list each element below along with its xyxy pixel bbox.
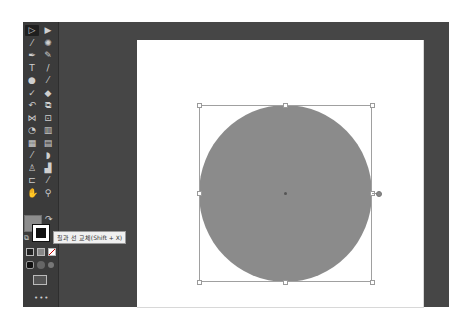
eyedropper-tool[interactable]: ⁄ — [25, 150, 39, 161]
handle-top-center[interactable] — [283, 103, 288, 108]
gradient-tool[interactable]: ▤ — [41, 138, 55, 149]
width-tool[interactable]: ⋈ — [25, 113, 39, 124]
stroke-color-swatch[interactable] — [33, 225, 49, 241]
handle-top-right[interactable] — [370, 103, 375, 108]
ellipse-tool[interactable]: ● — [25, 75, 39, 86]
center-point — [284, 192, 287, 195]
eraser-tool[interactable]: ◆ — [41, 88, 55, 99]
handle-bottom-left[interactable] — [197, 280, 202, 285]
selection-tool[interactable]: ▷ — [25, 25, 39, 36]
mesh-tool[interactable]: ▦ — [25, 138, 39, 149]
rotate-tool[interactable]: ↶ — [25, 100, 39, 111]
artboard-tool[interactable]: ⊏ — [25, 175, 39, 186]
draw-normal-button[interactable] — [26, 261, 34, 269]
curvature-tool[interactable]: ✎ — [41, 50, 55, 61]
paintbrush-tool[interactable]: ⁄ — [41, 75, 55, 86]
shaper-tool[interactable]: ✓ — [25, 88, 39, 99]
handle-top-left[interactable] — [197, 103, 202, 108]
draw-inside-button[interactable] — [48, 262, 54, 268]
direct-selection-tool[interactable]: ▶ — [41, 25, 55, 36]
swap-fill-stroke-icon[interactable]: ↷ — [45, 214, 53, 224]
screen-mode-button[interactable] — [33, 275, 47, 285]
perspective-grid-tool[interactable]: ▥ — [41, 125, 55, 136]
handle-bottom-right[interactable] — [370, 280, 375, 285]
free-transform-tool[interactable]: ⊡ — [41, 113, 55, 124]
tools-panel: ▷▶⁄✺✒✎T/●⁄✓◆↶⧉⋈⊡◔▥▦▤⁄◗♙▟⊏⁄✋⚲ ↷ ⧉ ••• — [23, 22, 59, 307]
pie-widget-handle[interactable] — [376, 191, 382, 197]
line-segment-tool[interactable]: / — [41, 63, 55, 74]
gradient-button[interactable] — [37, 248, 45, 256]
scale-tool[interactable]: ⧉ — [41, 100, 55, 111]
default-fill-stroke-icon[interactable]: ⧉ — [24, 234, 29, 242]
blend-tool[interactable]: ◗ — [41, 150, 55, 161]
pen-tool[interactable]: ✒ — [25, 50, 39, 61]
slice-tool[interactable]: ⁄ — [41, 175, 55, 186]
lasso-tool[interactable]: ✺ — [41, 38, 55, 49]
column-graph-tool[interactable]: ▟ — [41, 163, 55, 174]
none-button[interactable] — [48, 248, 56, 256]
type-tool[interactable]: T — [25, 63, 39, 74]
handle-bottom-center[interactable] — [283, 280, 288, 285]
hand-tool[interactable]: ✋ — [25, 188, 39, 199]
swap-fill-stroke-tooltip: 칠과 선 교체(Shift + X) — [53, 231, 126, 244]
handle-middle-left[interactable] — [197, 191, 202, 196]
zoom-tool[interactable]: ⚲ — [41, 188, 55, 199]
draw-behind-button[interactable] — [37, 261, 45, 269]
edit-toolbar-button[interactable]: ••• — [34, 294, 49, 302]
symbol-sprayer-tool[interactable]: ♙ — [25, 163, 39, 174]
color-button[interactable] — [26, 248, 34, 256]
shape-builder-tool[interactable]: ◔ — [25, 125, 39, 136]
magic-wand-tool[interactable]: ⁄ — [25, 38, 39, 49]
